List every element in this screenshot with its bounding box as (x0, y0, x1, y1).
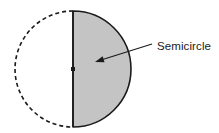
semicircle-label: Semicircle (157, 40, 211, 52)
shaded-semicircle (73, 11, 131, 127)
semicircle-figure: Semicircle (0, 0, 219, 133)
center-point-marker (71, 67, 75, 71)
figure-canvas: Semicircle (0, 0, 219, 133)
dashed-semicircle-arc (15, 11, 73, 127)
